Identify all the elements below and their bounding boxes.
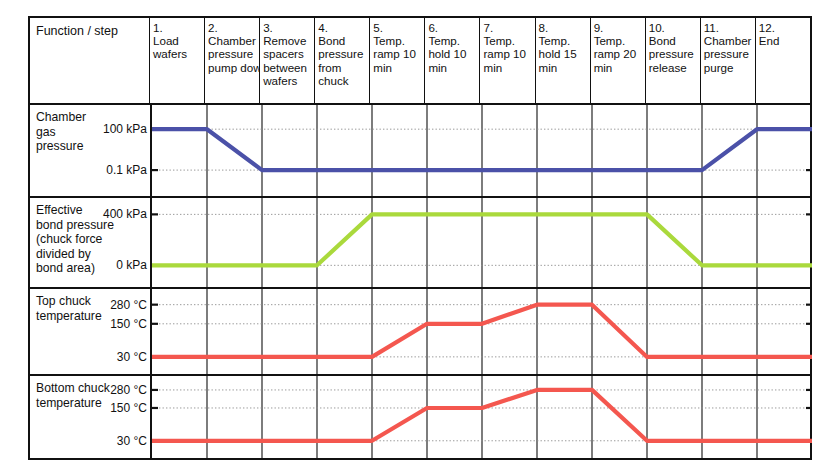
band-label-effective-bond-pressure: Effectivebond pressure(chuck forcedivide… [30,198,150,287]
signal-band-effective-bond-pressure: Effectivebond pressure(chuck forcedivide… [30,198,810,289]
step-number: 10. [649,21,698,34]
step-label-line: pressure [704,47,753,60]
step-number: 5. [373,21,422,34]
band-plot-chamber-gas-pressure [150,105,812,196]
function-step-title-cell: Function / step [30,18,150,103]
process-timing-diagram: Function / step 1.Loadwafers2.Chamberpre… [0,0,828,473]
step-label-line: Bond [649,34,698,47]
step-label-line: chuck [318,74,367,87]
step-number: 4. [318,21,367,34]
step-label-line: purge [704,61,753,74]
step-label-line: pressure [208,47,257,60]
tick-label: 400 kPa [103,208,147,220]
step-label-line: min [428,61,477,74]
step-label-line: Load [153,34,202,47]
step-label-line: between [263,61,312,74]
step-header-cell-5: 5.Temp.ramp 10min [370,18,425,103]
step-header-cell-1: 1.Loadwafers [150,18,205,103]
step-header-cell-3: 3.Removespacersbetweenwafers [260,18,315,103]
step-label-line: Chamber [704,34,753,47]
step-header-cell-11: 11.Chamberpressurepurge [701,18,756,103]
step-label-line: Temp. [594,34,643,47]
step-header-row: Function / step 1.Loadwafers2.Chamberpre… [30,18,810,105]
signal-band-bottom-chuck-temperature: Bottom chucktemperature280 °C150 °C30 °C [30,376,810,458]
step-header-cell-6: 6.Temp.hold 10min [425,18,480,103]
step-label-line: min [594,61,643,74]
step-header-cell-12: 12.End [756,18,810,103]
step-number: 3. [263,21,312,34]
step-number: 2. [208,21,257,34]
step-label-line: ramp 10 [373,47,422,60]
step-label-line: Bond [318,34,367,47]
tick-label: 280 °C [110,299,147,311]
plot-canvas [152,376,812,458]
tick-label: 150 °C [110,318,147,330]
tick-label: 30 °C [117,435,147,447]
tick-label: 150 °C [110,402,147,414]
tick-label: 100 kPa [103,123,147,135]
step-header-cell-2: 2.Chamberpressurepump down [205,18,260,103]
step-label-line: pressure [318,47,367,60]
step-label-line: wafers [153,47,202,60]
step-label-line: Remove [263,34,312,47]
step-number: 9. [594,21,643,34]
step-header-cell-7: 7.Temp.ramp 10min [480,18,535,103]
step-label-line: hold 10 [428,47,477,60]
step-label-line: ramp 10 [483,47,532,60]
band-label-line: pressure [36,139,146,154]
step-label-line: Temp. [428,34,477,47]
step-label-line: min [483,61,532,74]
signal-band-top-chuck-temperature: Top chucktemperature280 °C150 °C30 °C [30,289,810,376]
step-label-line: Temp. [373,34,422,47]
step-label-line: Temp. [483,34,532,47]
step-label-line: release [649,61,698,74]
step-label-line: from [318,61,367,74]
step-header-cell-8: 8.Temp.hold 15min [536,18,591,103]
signal-band-chamber-gas-pressure: Chambergaspressure100 kPa0.1 kPa [30,105,810,198]
step-label-line: ramp 20 [594,47,643,60]
step-label-line: pressure [649,47,698,60]
band-label-bottom-chuck-temperature: Bottom chucktemperature280 °C150 °C30 °C [30,376,150,458]
band-plot-bottom-chuck-temperature [150,376,812,458]
plot-canvas [152,198,812,289]
step-label-line: End [759,34,808,47]
step-number: 12. [759,21,808,34]
diagram-frame: Function / step 1.Loadwafers2.Chamberpre… [28,16,812,460]
plot-canvas [152,105,812,198]
band-plot-effective-bond-pressure [150,198,812,287]
tick-label: 30 °C [117,351,147,363]
step-number: 6. [428,21,477,34]
band-label-top-chuck-temperature: Top chucktemperature280 °C150 °C30 °C [30,289,150,374]
step-number: 1. [153,21,202,34]
step-label-line: min [373,61,422,74]
band-label-line: (chuck force [36,232,146,247]
step-number: 11. [704,21,753,34]
step-label-line: Temp. [539,34,588,47]
tick-label: 0 kPa [116,259,147,271]
step-header-cell-10: 10.Bondpressurerelease [646,18,701,103]
step-label-line: wafers [263,74,312,87]
step-header-cell-9: 9.Temp.ramp 20min [591,18,646,103]
step-number: 7. [483,21,532,34]
plot-canvas [152,289,812,376]
tick-label: 280 °C [110,384,147,396]
step-header-cell-4: 4.Bondpressurefromchuck [315,18,370,103]
tick-label: 0.1 kPa [106,164,147,176]
step-number: 8. [539,21,588,34]
step-label-line: hold 15 [539,47,588,60]
band-plot-top-chuck-temperature [150,289,812,374]
step-label-line: Chamber [208,34,257,47]
step-label-line: min [539,61,588,74]
step-label-line: spacers [263,47,312,60]
band-label-chamber-gas-pressure: Chambergaspressure100 kPa0.1 kPa [30,105,150,196]
step-label-line: pump down [208,61,257,74]
